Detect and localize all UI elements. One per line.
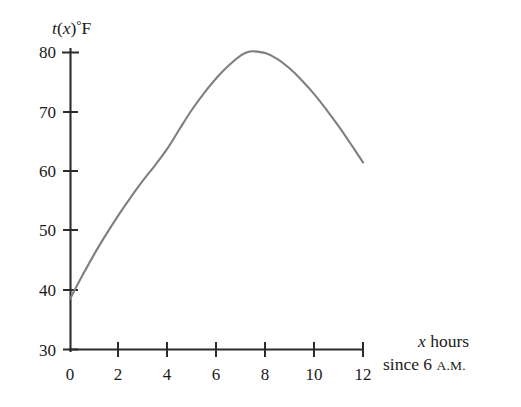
temperature-curve: [70, 51, 363, 299]
x-axis-caption: x hours since 6 A.M.: [383, 330, 518, 376]
x-axis-caption-line2: since 6 A.M.: [383, 353, 518, 376]
y-tick-label-50: 50: [12, 222, 56, 239]
x-axis-caption-line1-rest: hours: [426, 331, 469, 351]
temperature-curve-figure: t(x)°F 80 70 60 50 40 30 0 2 4 6 8 10 12…: [0, 0, 521, 407]
y-axis-title: t(x)°F: [52, 18, 91, 38]
x-tick-label-8: 8: [261, 366, 270, 383]
y-tick-label-60: 60: [12, 163, 56, 180]
x-tick-label-0: 0: [66, 366, 75, 383]
y-tick-label-80: 80: [12, 44, 56, 61]
y-tick-label-70: 70: [12, 104, 56, 121]
x-axis-caption-line2-pre: since 6: [383, 354, 436, 374]
x-axis-caption-line1: x hours: [383, 330, 518, 353]
x-tick-label-12: 12: [355, 366, 372, 383]
x-axis-caption-var: x: [418, 331, 426, 351]
y-tick-label-30: 30: [12, 342, 56, 359]
y-tick-label-40: 40: [12, 282, 56, 299]
x-tick-label-4: 4: [163, 366, 172, 383]
x-tick-label-2: 2: [114, 366, 123, 383]
x-tick-label-6: 6: [212, 366, 221, 383]
x-tick-label-10: 10: [306, 366, 323, 383]
y-axis-title-unit: F: [82, 18, 92, 38]
x-axis-caption-ampm: A.M.: [436, 358, 465, 373]
